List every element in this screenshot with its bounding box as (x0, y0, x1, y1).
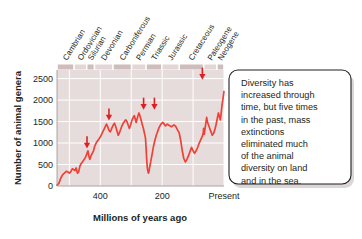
plot-area-background (57, 70, 224, 186)
x-tick-label: Present (208, 191, 240, 201)
callout-line: eliminated much (241, 139, 308, 149)
period-band (114, 65, 131, 70)
y-tick-label: 500 (38, 160, 53, 170)
callout-line: time, but five times (241, 102, 318, 112)
period-band (218, 65, 224, 70)
y-tick-label: 2500 (33, 74, 53, 84)
callout-line: and in the sea. (241, 176, 301, 186)
diversity-through-time-figure: 05001000150020002500 400200Present Cambr… (0, 0, 362, 239)
period-band (132, 65, 145, 70)
period-band (180, 65, 203, 70)
callout-line: Diversity has (241, 78, 294, 88)
period-band (95, 65, 112, 70)
x-tick-label: 400 (93, 191, 108, 201)
callout-line: increased through (241, 90, 315, 100)
chart-canvas: 05001000150020002500 400200Present Cambr… (0, 0, 362, 239)
period-band (75, 65, 86, 70)
period-band (204, 65, 216, 70)
callout-line: extinctions (241, 127, 285, 137)
y-tick-label: 0 (48, 181, 53, 191)
y-tick-label: 1500 (33, 117, 53, 127)
period-band (163, 65, 179, 70)
period-band (58, 65, 73, 70)
y-tick-label: 2000 (33, 95, 53, 105)
callout-box: Diversity hasincreased throughtime, but … (229, 70, 354, 188)
x-axis-title: Millions of years ago (93, 212, 187, 223)
callout-line: diversity on land (241, 163, 307, 173)
period-band (87, 65, 93, 70)
callout-line: of the animal (241, 151, 294, 161)
y-tick-label: 1000 (33, 138, 53, 148)
period-band-strip (58, 65, 223, 70)
callout-line: in the past, mass (241, 115, 311, 125)
x-tick-label: 200 (155, 191, 170, 201)
y-axis-title: Number of animal genera (12, 70, 23, 185)
period-band (147, 65, 161, 70)
